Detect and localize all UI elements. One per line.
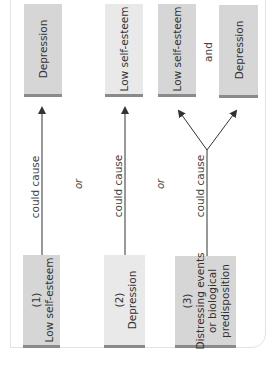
cause-box-2: (2) Depression <box>104 255 145 348</box>
relation-label-3: could cause <box>194 155 206 218</box>
effect-label: Low self-esteem <box>171 7 184 92</box>
effect-label: Low self-esteem <box>118 7 131 92</box>
cause-box-3: (3) Distressing events or biological pre… <box>175 256 236 348</box>
cause-number: (1) <box>29 258 42 343</box>
cause-text: Depression <box>125 271 138 330</box>
cause-text-line-2: or biological <box>206 252 219 349</box>
cause-number: (2) <box>112 271 125 330</box>
effect-label: Depression <box>37 20 50 79</box>
cause-label: (1) Low self-esteem <box>29 258 54 343</box>
separator-or-1: or <box>73 179 84 189</box>
effect-box-depression-3: Depression <box>219 5 258 98</box>
cause-number: (3) <box>181 252 194 349</box>
arrow-3-right <box>207 111 236 150</box>
effect-box-depression-1: Depression <box>24 4 62 97</box>
cause-box-1: (1) Low self-esteem <box>23 255 60 348</box>
cause-text: Low self-esteem <box>42 258 55 343</box>
effect-box-low-self-esteem-3: Low self-esteem <box>158 4 196 97</box>
effects-joiner: and <box>202 42 214 62</box>
cause-text-line-3: predisposition <box>218 252 231 349</box>
cause-label: (2) Depression <box>112 271 137 330</box>
relation-label-1: could cause <box>29 156 41 219</box>
effect-label: Depression <box>232 21 245 80</box>
relation-label-2: could cause <box>112 155 124 218</box>
effect-box-low-self-esteem-2: Low self-esteem <box>105 4 143 97</box>
arrow-3-left <box>179 111 207 150</box>
cause-text-line-1: Distressing events <box>193 252 206 349</box>
separator-or-2: or <box>155 179 166 189</box>
cause-label: (3) Distressing events or biological pre… <box>181 252 231 349</box>
